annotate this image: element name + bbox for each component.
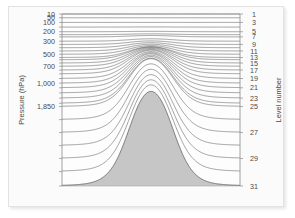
y-axis-title: Pressure (hPa) [17, 75, 26, 125]
left-tick-label: 300 [43, 37, 55, 46]
right-axis-ticks [240, 14, 243, 186]
figure-container: 10501002003005007001,0001,850 1357911131… [0, 0, 295, 218]
left-tick-label: 200 [43, 27, 55, 36]
y2-axis-title: Level number [274, 77, 283, 122]
right-axis-tick-labels: 135791113151719212325272931 [250, 10, 258, 191]
right-tick-label: 27 [250, 128, 258, 137]
left-axis-ticks [59, 14, 62, 186]
left-axis-tick-labels: 10501002003005007001,0001,850 [37, 10, 55, 112]
right-tick-label: 3 [252, 18, 256, 27]
left-tick-label: 1,850 [37, 102, 55, 111]
left-tick-label: 500 [43, 50, 55, 59]
right-tick-label: 29 [250, 154, 258, 163]
right-tick-label: 21 [250, 83, 258, 92]
right-tick-label: 19 [250, 74, 258, 83]
left-tick-label: 700 [43, 62, 55, 71]
right-tick-label: 25 [250, 102, 258, 111]
left-tick-label: 1,000 [37, 79, 55, 88]
left-tick-label: 100 [43, 18, 55, 27]
vertical-levels-chart: 10501002003005007001,0001,850 1357911131… [0, 0, 295, 218]
plot-wrapper: 10501002003005007001,0001,850 1357911131… [0, 0, 295, 218]
right-tick-label: 31 [250, 182, 258, 191]
